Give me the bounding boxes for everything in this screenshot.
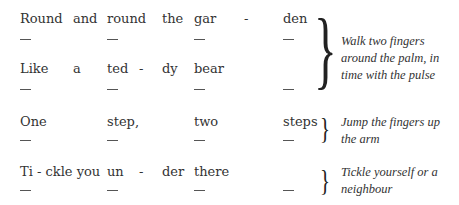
lyric-word: round — [107, 11, 146, 26]
action-note: Tickle yourself or a neighbour — [341, 164, 456, 198]
beat-mark — [20, 190, 31, 191]
beat-mark — [20, 39, 31, 40]
lyric-word: ted — [107, 61, 128, 76]
beat-mark — [107, 89, 118, 90]
lyric-word: and — [73, 11, 97, 26]
syllable-hyphen: - — [244, 11, 248, 26]
brace-icon: } — [314, 6, 337, 92]
lyric-word: den — [283, 11, 307, 26]
beat-mark — [194, 89, 205, 90]
lyric-word: there — [194, 164, 229, 179]
brace-icon: } — [320, 113, 330, 143]
action-note: Jump the fingers up the arm — [341, 114, 456, 148]
lyric-word: two — [194, 114, 218, 129]
lyric-word: the — [162, 11, 183, 26]
beat-mark — [283, 190, 294, 191]
brace-icon: } — [320, 165, 330, 195]
syllable-hyphen: - — [139, 164, 143, 179]
beat-mark — [20, 140, 31, 141]
lyric-word: a — [73, 61, 81, 76]
beat-mark — [194, 39, 205, 40]
lyric-word: dy — [162, 61, 178, 76]
lyric-word: der — [162, 164, 184, 179]
beat-mark — [194, 190, 205, 191]
beat-mark — [107, 190, 118, 191]
beat-mark — [283, 89, 294, 90]
beat-mark — [107, 39, 118, 40]
lyric-word: Round — [20, 11, 63, 26]
lyric-word: Ti - ckle you — [20, 164, 100, 179]
syllable-hyphen: - — [139, 61, 143, 76]
beat-mark — [20, 89, 31, 90]
lyric-word: Like — [20, 61, 48, 76]
action-note: Walk two fingers around the palm, in tim… — [341, 33, 456, 84]
lyric-word: gar — [194, 11, 216, 26]
lyric-word: steps — [283, 114, 318, 129]
lyric-word: bear — [194, 61, 224, 76]
lyric-word: step, — [107, 114, 139, 129]
lyric-word: un — [107, 164, 124, 179]
beat-mark — [107, 140, 118, 141]
beat-mark — [283, 140, 294, 141]
beat-mark — [194, 140, 205, 141]
beat-mark — [283, 39, 294, 40]
lyric-word: One — [20, 114, 47, 129]
